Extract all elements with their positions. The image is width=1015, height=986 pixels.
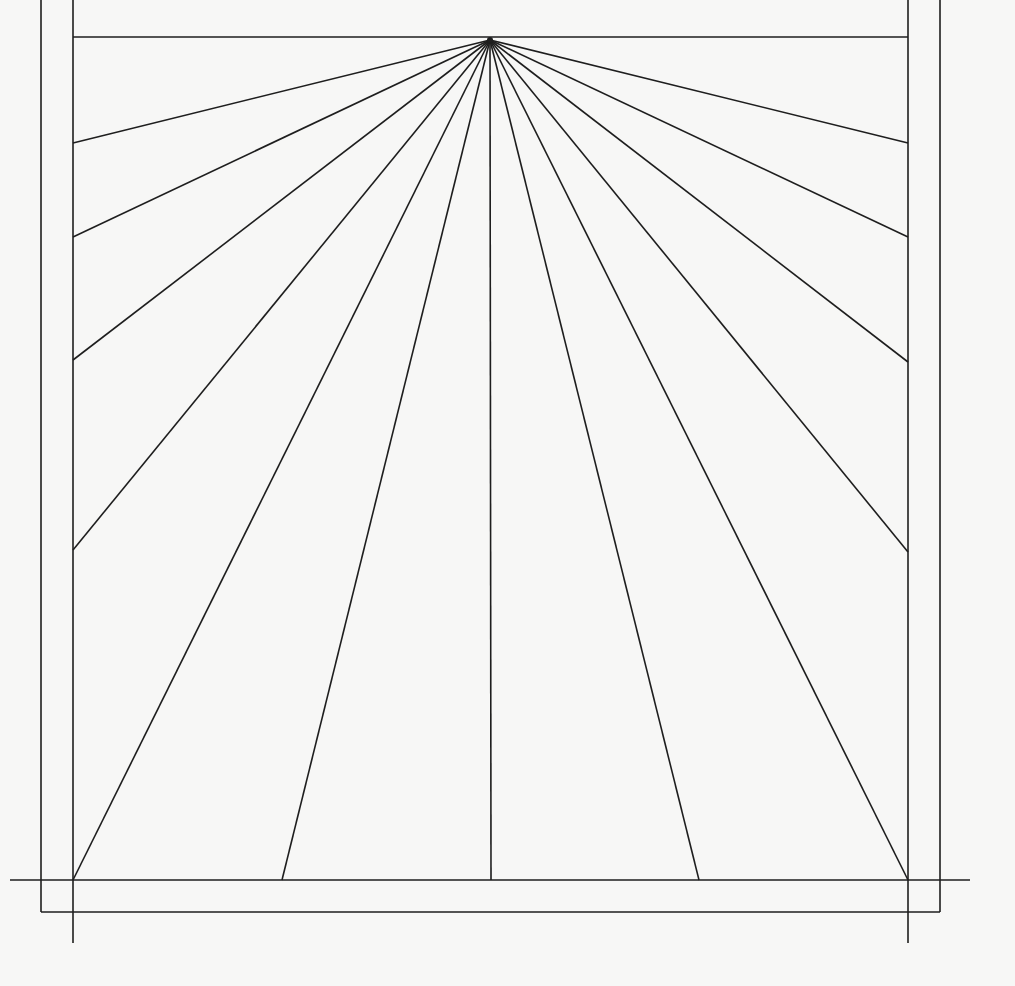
sundial-diagram (0, 0, 1015, 986)
background (0, 0, 1015, 986)
diagram-svg (0, 0, 1015, 986)
hub-point (487, 37, 493, 43)
hour-line-bottom-center (490, 40, 491, 880)
